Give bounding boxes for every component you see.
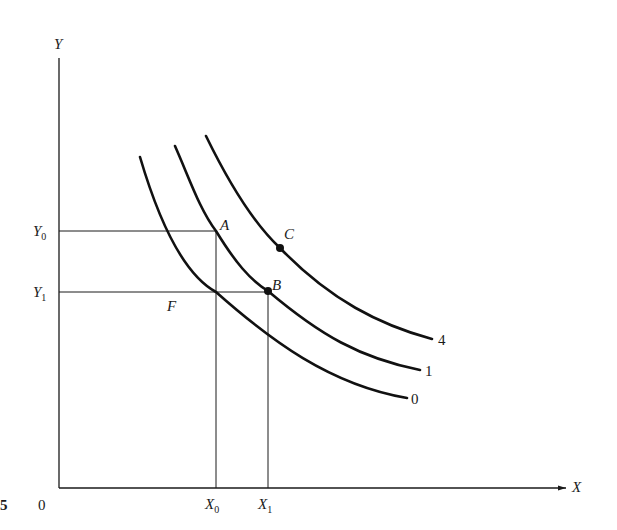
- origin-label: 0: [38, 497, 46, 513]
- curve-4: [206, 136, 432, 339]
- curve-1: [175, 146, 420, 370]
- indifference-curve-diagram: A B C F 4 1 0 Y X 0 5 Y0 Y1 X0 X1: [0, 0, 617, 530]
- x1-sub: 1: [267, 504, 272, 515]
- point-b-label: B: [272, 277, 281, 293]
- point-c-marker: [276, 244, 284, 252]
- y0-tick-label: Y0: [33, 223, 46, 242]
- x0-tick-label: X0: [204, 496, 219, 515]
- y-axis-label: Y: [54, 36, 64, 52]
- curve-1-label: 1: [425, 363, 433, 379]
- point-f-label: F: [166, 298, 177, 314]
- margin-mark: 5: [0, 497, 8, 513]
- y0-sub: 0: [41, 231, 46, 242]
- y1-tick-label: Y1: [33, 284, 46, 303]
- x-axis-arrow-icon: [558, 486, 566, 491]
- point-b-marker: [264, 287, 272, 295]
- curve-0-label: 0: [411, 391, 419, 407]
- y1-sub: 1: [41, 292, 46, 303]
- point-a-label: A: [219, 217, 230, 233]
- x0-sub: 0: [214, 504, 219, 515]
- curve-4-label: 4: [438, 332, 446, 348]
- x1-tick-label: X1: [257, 496, 272, 515]
- x-axis-label: X: [571, 479, 582, 495]
- point-c-label: C: [284, 226, 295, 242]
